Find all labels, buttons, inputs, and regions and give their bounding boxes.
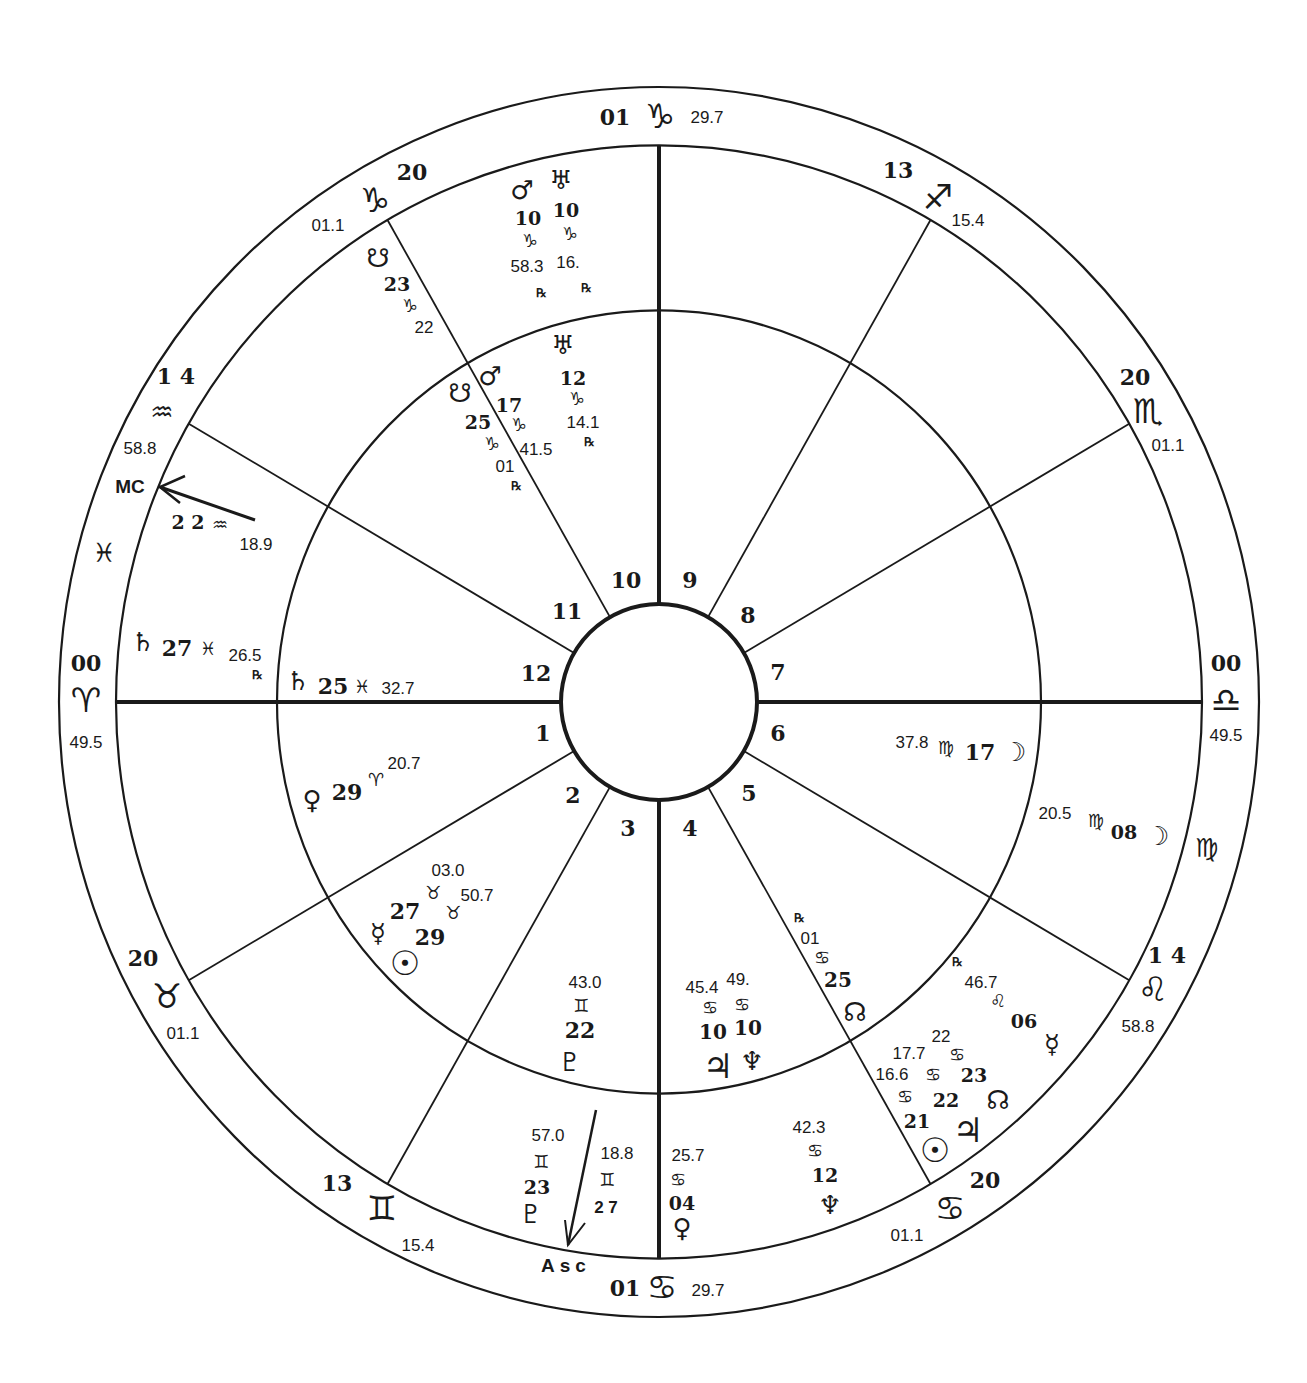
cusp-11-degree: 20 [397, 161, 428, 183]
cusp-10-degree: 01 [600, 106, 631, 128]
cusp-4-minutes: 29.7 [691, 1282, 724, 1299]
retrograde-icon: ℞ [581, 282, 592, 294]
outer-south-node-minutes: 22 [415, 319, 434, 336]
jupiter-icon: ♃ [953, 1113, 983, 1147]
inner-neptune-degree: 10 [734, 1018, 762, 1038]
inner-jupiter-degree: 10 [699, 1022, 727, 1042]
inner-moon-degree: 17 [965, 741, 996, 763]
asc-arrowhead [565, 1220, 585, 1245]
house-number-8: 8 [740, 604, 755, 626]
inner-jupiter-minutes: 45.4 [685, 979, 718, 996]
inner-mercury-minutes: 03.0 [431, 862, 464, 879]
outer-jupiter-degree: 22 [933, 1091, 959, 1110]
inner-venus-minutes: 20.7 [387, 755, 420, 772]
retrograde-icon: ℞ [252, 669, 263, 681]
outer-mercury-minutes: 46.7 [964, 974, 997, 991]
outer-mercury-degree: 06 [1011, 1012, 1037, 1031]
south-node-icon: ☋ [366, 245, 389, 271]
inner-mars-degree: 17 [496, 396, 522, 415]
retrograde-icon: ℞ [952, 956, 963, 968]
cancer-icon: ♋ [935, 1191, 965, 1225]
capricorn-icon: ♑ [484, 435, 500, 453]
cusp-2-minutes: 01.1 [166, 1025, 199, 1042]
gemini-icon: ♊ [533, 1153, 549, 1171]
north-node-icon: ☊ [986, 1087, 1009, 1113]
leo-icon: ♌ [990, 992, 1006, 1010]
mercury-icon: ☿ [370, 920, 386, 946]
outer-pluto-degree: 23 [524, 1178, 550, 1197]
inner-venus-degree: 29 [332, 781, 363, 803]
cusp-7-degree: 00 [1211, 652, 1242, 674]
outer-saturn-minutes: 26.5 [228, 647, 261, 664]
aquarius-icon: ♒ [150, 399, 173, 425]
cusp-10-minutes: 29.7 [690, 109, 723, 126]
pluto-icon: ♇ [558, 1049, 581, 1075]
neptune-icon: ♆ [818, 1192, 841, 1218]
outer-saturn-degree: 27 [162, 637, 193, 659]
inner-uranus-minutes: 14.1 [566, 414, 599, 431]
cusp-6-degree: 1 4 [1148, 944, 1186, 966]
asc-label: Asc [541, 1256, 591, 1275]
aries-icon: ♈ [368, 771, 384, 789]
jupiter-icon: ♃ [703, 1049, 733, 1083]
cusp-5-minutes: 01.1 [890, 1227, 923, 1244]
gemini-icon: ♊ [573, 997, 589, 1015]
outer-jupiter-minutes: 17.7 [892, 1045, 925, 1062]
outer-mars-minutes: 58.3 [510, 258, 543, 275]
mars-icon: ♂ [478, 363, 501, 389]
inner-moon-minutes: 37.8 [895, 734, 928, 751]
mc-arrowhead [160, 476, 185, 503]
cusp-12-minutes: 58.8 [123, 440, 156, 457]
cancer-icon: ♋ [814, 949, 830, 967]
cancer-icon: ♋ [949, 1046, 965, 1064]
cusp-8-minutes: 01.1 [1151, 437, 1184, 454]
house-number-1: 1 [535, 722, 550, 744]
inner-pluto-minutes: 43.0 [568, 974, 601, 991]
capricorn-icon: ♑ [402, 297, 418, 315]
cusp-5-degree: 20 [970, 1169, 1001, 1191]
north-node-icon: ☊ [843, 999, 866, 1025]
asc-minutes: 18.8 [600, 1145, 633, 1162]
house-number-12: 12 [521, 662, 552, 684]
taurus-icon: ♉ [445, 904, 461, 922]
sun-icon: ☉ [920, 1133, 950, 1167]
inner-south-node-minutes: 01 [496, 458, 515, 475]
cusp-12-degree: 1 4 [157, 365, 195, 387]
capricorn-icon: ♑ [562, 225, 578, 243]
virgo-icon: ♍ [938, 739, 954, 757]
outer-sun-degree: 21 [904, 1112, 930, 1131]
inner-pluto-degree: 22 [565, 1019, 596, 1041]
sagittarius-icon: ♐ [923, 180, 953, 214]
outer-neptune-degree: 12 [812, 1166, 838, 1185]
aries-icon: ♈ [71, 683, 101, 717]
cusp-4-degree: 01 [610, 1277, 641, 1299]
uranus-icon: ♅ [549, 167, 572, 193]
house-number-4: 4 [682, 817, 697, 839]
outer-uranus-degree: 10 [553, 201, 579, 220]
mars-icon: ♂ [510, 177, 533, 203]
cancer-icon: ♋ [702, 999, 718, 1017]
house-number-10: 10 [611, 569, 642, 591]
cusp-3-degree: 13 [322, 1172, 353, 1194]
venus-icon: ♀ [672, 1215, 691, 1241]
cancer-icon: ♋ [647, 1270, 677, 1304]
inner-saturn-degree: 25 [318, 675, 349, 697]
taurus-icon: ♉ [152, 979, 182, 1013]
center-circle [561, 604, 757, 800]
cancer-icon: ♋ [807, 1142, 823, 1160]
pisces-icon: ♓ [354, 678, 370, 696]
mc-degree: 2 2 [171, 513, 204, 532]
inner-sun-minutes: 50.7 [460, 887, 493, 904]
uranus-icon: ♅ [551, 332, 574, 358]
capricorn-icon: ♑ [645, 99, 675, 133]
inner-mercury-degree: 27 [390, 900, 421, 922]
outer-moon-minutes: 20.5 [1038, 805, 1071, 822]
neptune-icon: ♆ [740, 1048, 763, 1074]
retrograde-icon: ℞ [794, 912, 805, 924]
cusp-7-minutes: 49.5 [1209, 727, 1242, 744]
cusp-line-2 [744, 424, 1129, 653]
house-cusp-lines [116, 145, 1202, 1258]
virgo-icon: ♍ [1088, 812, 1104, 830]
outer-uranus-minutes: 16. [556, 254, 580, 271]
virgo-icon: ♍ [1195, 835, 1218, 861]
